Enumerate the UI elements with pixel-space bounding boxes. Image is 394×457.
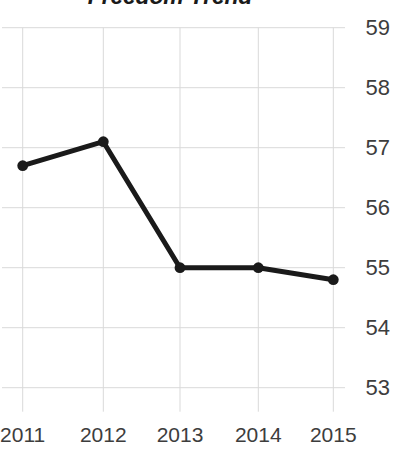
data-point-marker	[253, 262, 264, 273]
x-axis-tick-label: 2011	[0, 424, 45, 445]
y-axis-tick-label: 58	[344, 77, 390, 99]
y-axis-tick-label: 56	[344, 197, 390, 219]
chart-container: Freedom Trend 59585756555453 20112012201…	[0, 0, 394, 457]
data-point-marker	[98, 136, 109, 147]
y-axis-tick-label: 54	[344, 317, 390, 339]
horizontal-gridlines	[2, 28, 345, 388]
plot-area	[0, 0, 394, 412]
y-axis-tick-label: 53	[344, 377, 390, 399]
data-point-marker	[17, 160, 28, 171]
x-axis-tick-label: 2012	[80, 424, 127, 445]
y-axis-tick-label: 57	[344, 137, 390, 159]
x-axis-tick-label: 2014	[235, 424, 282, 445]
x-axis-tick-label: 2015	[310, 424, 357, 445]
data-line-series	[23, 142, 334, 280]
y-axis-tick-label: 55	[344, 257, 390, 279]
data-point-markers	[17, 136, 338, 285]
data-point-marker	[328, 274, 339, 285]
line-chart-svg	[0, 0, 394, 412]
vertical-gridlines	[23, 28, 334, 412]
y-axis-tick-label: 59	[344, 17, 390, 39]
x-axis-tick-label: 2013	[157, 424, 204, 445]
data-point-marker	[175, 262, 186, 273]
